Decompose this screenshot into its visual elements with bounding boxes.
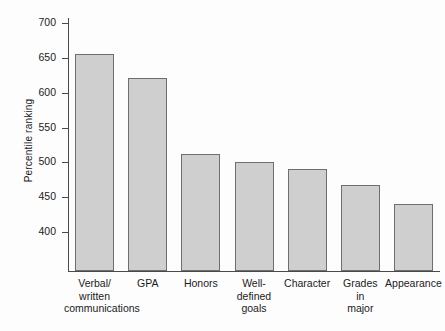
category-label-line: Grades bbox=[330, 277, 391, 290]
y-axis-tick-label: 650 bbox=[38, 51, 56, 63]
y-axis-tick: 650 bbox=[62, 58, 69, 59]
y-axis-tick: 400 bbox=[62, 232, 69, 233]
category-label-line: goals bbox=[223, 302, 284, 315]
x-axis-category-label: Well-definedgoals bbox=[223, 277, 284, 315]
category-label-line: Well- bbox=[223, 277, 284, 290]
y-axis-tick: 500 bbox=[62, 162, 69, 163]
x-axis-category-label: GPA bbox=[117, 277, 178, 290]
bar bbox=[181, 154, 220, 271]
category-label-line: written bbox=[64, 290, 125, 303]
x-axis-line bbox=[68, 271, 440, 272]
bar-chart-figure: Percentile ranking 400450500550600650700… bbox=[0, 0, 445, 331]
x-axis-category-label: Appearance bbox=[383, 277, 444, 290]
y-axis-tick-label: 550 bbox=[38, 121, 56, 133]
category-label-line: Appearance bbox=[383, 277, 444, 290]
y-axis-tick: 450 bbox=[62, 197, 69, 198]
bar bbox=[235, 162, 274, 271]
plot-area: 400450500550600650700 Verbal/writtencomm… bbox=[68, 18, 440, 272]
bar bbox=[394, 204, 433, 271]
y-axis-tick-label: 700 bbox=[38, 16, 56, 28]
x-axis-category-label: Honors bbox=[170, 277, 231, 290]
x-axis-category-label: Character bbox=[277, 277, 338, 290]
category-label-line: Character bbox=[277, 277, 338, 290]
y-axis-tick-label: 500 bbox=[38, 155, 56, 167]
y-axis-tick: 550 bbox=[62, 128, 69, 129]
y-axis-tick: 600 bbox=[62, 93, 69, 94]
bar bbox=[288, 169, 327, 271]
category-label-line: Honors bbox=[170, 277, 231, 290]
category-label-line: Verbal/ bbox=[64, 277, 125, 290]
x-axis-category-label: Verbal/writtencommunications bbox=[64, 277, 125, 315]
category-label-line: GPA bbox=[117, 277, 178, 290]
y-axis-title: Percentile ranking bbox=[23, 66, 34, 216]
category-label-line: in bbox=[330, 290, 391, 303]
y-axis-line bbox=[68, 18, 69, 272]
category-label-line: communications bbox=[64, 302, 125, 315]
x-axis-category-label: Gradesinmajor bbox=[330, 277, 391, 315]
bar bbox=[75, 54, 114, 271]
bar bbox=[341, 185, 380, 271]
y-axis-tick-label: 400 bbox=[38, 225, 56, 237]
y-axis-tick-label: 600 bbox=[38, 86, 56, 98]
y-axis-tick-label: 450 bbox=[38, 190, 56, 202]
bar bbox=[128, 78, 167, 271]
category-label-line: defined bbox=[223, 290, 284, 303]
category-label-line: major bbox=[330, 302, 391, 315]
y-axis-tick: 700 bbox=[62, 23, 69, 24]
